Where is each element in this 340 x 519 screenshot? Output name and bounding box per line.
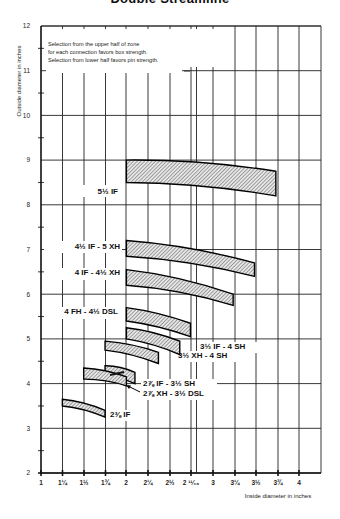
x-tick-label: 3¼ [230,479,240,486]
x-axis-label: Inside diameter in inches [245,493,311,499]
band-label: 5½ IF [98,187,119,196]
x-tick-label: 1 [39,479,43,486]
y-tick-label: 7 [26,246,30,253]
band-label: 3½ XH - 4 SH [178,351,228,360]
x-tick-label: 3½ [251,479,261,486]
band-label: 4 IF - 4½ XH [75,268,121,277]
x-tick-label: 1¾ [101,479,111,486]
x-tick-label: 4 [297,479,301,486]
x-tick-label: 2 ¹¹⁄₁₆ [183,479,200,486]
x-tick-label: 1¼ [58,479,68,486]
y-tick-label: 5 [26,335,30,342]
chart-plot: Selection from the upper half of zonefor… [0,0,340,519]
y-tick-label: 10 [23,112,31,119]
annotation-line: Selection from the upper half of zone [48,41,139,47]
annotation-line: for each connection favors box strength. [48,49,148,55]
y-axis-label: Outside diameter in inches [16,45,22,116]
y-tick-label: 4 [26,380,30,387]
x-tick-label: 3 [211,479,215,486]
x-tick-label: 2½ [165,479,175,486]
y-tick-label: 11 [23,67,30,74]
band-label: 2⅞ IF - 3½ SH [143,379,195,388]
y-tick-label: 12 [23,22,31,29]
band-label: 4½ IF - 5 XH [75,242,121,251]
band-label: 4 FH - 4½ DSL [64,307,118,316]
y-tick-label: 2 [26,469,30,476]
bands: 5½ IF4½ IF - 5 XH4 IF - 4½ XH4 FH - 4½ D… [44,160,276,421]
y-tick-label: 6 [26,291,30,298]
y-tick-label: 8 [26,201,30,208]
annotation-line: Selection from lower half favors pin str… [48,57,159,63]
y-tick-label: 3 [26,425,30,432]
y-tick-label: 9 [26,156,30,163]
x-tick-label: 2 [124,479,128,486]
band-label: 2⅞ XH - 3½ DSL [143,389,204,398]
band-label: 3½ IF - 4 SH [200,342,246,351]
band-label: 2⅜ IF [110,410,131,419]
annotation-note: Selection from the upper half of zonefor… [46,29,234,73]
x-tick-label: 3¾ [273,479,283,486]
connection-band [126,160,275,196]
x-tick-label: 2¼ [143,479,153,486]
connection-band [126,270,233,306]
x-tick-label: 1½ [79,479,89,486]
